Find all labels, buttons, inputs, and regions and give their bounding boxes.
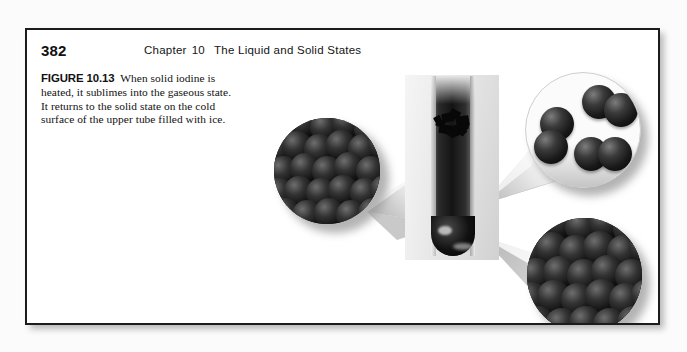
inset-gaseous-iodine-molecules (525, 72, 641, 188)
page-card: 382 Chapter10The Liquid and Solid States… (25, 28, 660, 325)
resublimed-iodine-crystals (434, 108, 474, 138)
tube-base-highlight (438, 226, 452, 235)
inset-solid-iodine-lattice-left (274, 118, 380, 224)
tube-base-highlight-secondary (453, 243, 473, 250)
textbook-page-figure: 382 Chapter10The Liquid and Solid States… (0, 0, 687, 352)
figure-artwork (27, 30, 660, 325)
inset-solid-iodine-lattice-bottom (527, 218, 642, 325)
tube-upper-cold-zone (431, 76, 475, 104)
